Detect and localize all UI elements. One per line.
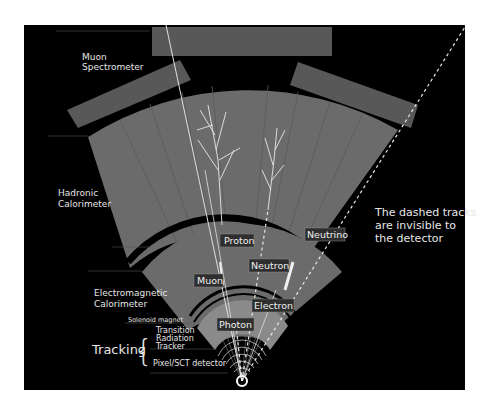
tag-muon: Muon xyxy=(194,274,223,287)
svg-text:Photon: Photon xyxy=(219,319,252,330)
svg-text:Electron: Electron xyxy=(254,300,293,311)
tag-electron: Electron xyxy=(252,299,294,312)
tracking-brace-icon: { xyxy=(134,333,153,368)
svg-text:Muon: Muon xyxy=(197,275,223,286)
tag-neutron: Neutron xyxy=(249,259,289,272)
svg-text:Neutron: Neutron xyxy=(251,260,289,271)
tag-neutrino: Neutrino xyxy=(305,228,348,241)
muon-chamber-top xyxy=(152,27,332,56)
tag-proton: Proton xyxy=(220,234,255,247)
tag-photon: Photon xyxy=(217,318,254,331)
svg-text:Proton: Proton xyxy=(224,235,255,246)
label-pixel-sct: Pixel/SCT detector xyxy=(153,359,227,368)
detector-diagram: Muon Spectrometer Hadronic Calorimeter E… xyxy=(0,0,487,410)
label-solenoid-magnet: Solenoid magnet xyxy=(128,316,184,324)
svg-text:Neutrino: Neutrino xyxy=(307,229,348,240)
